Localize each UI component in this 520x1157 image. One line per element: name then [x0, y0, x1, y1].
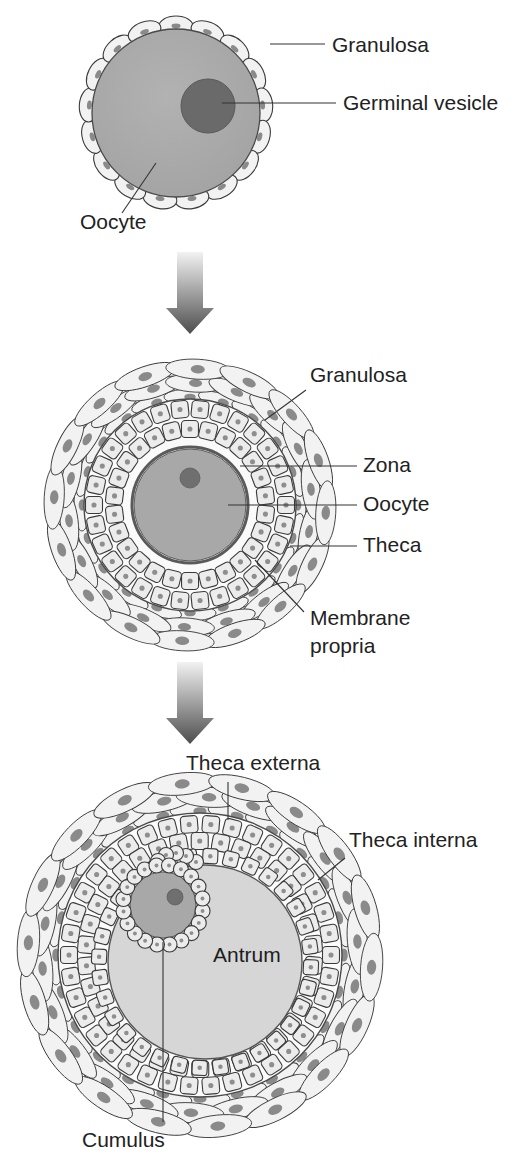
follicle-development-figure: Granulosa Germinal vesicle Oocyte Granul…: [0, 0, 520, 1157]
stage-antral-follicle: Theca externa Theca interna Antrum Cumul…: [15, 751, 478, 1151]
stage-preantral-follicle: Granulosa Zona Oocyte Theca Membrane pro…: [42, 357, 430, 657]
diagram-canvas: Granulosa Germinal vesicle Oocyte Granul…: [0, 0, 520, 1157]
label-granulosa-s2: Granulosa: [310, 363, 407, 386]
oocyte-body: [92, 29, 260, 197]
label-zona-s2: Zona: [363, 453, 411, 476]
germinal-vesicle-s2: [180, 468, 200, 488]
label-oocyte-s2: Oocyte: [363, 492, 430, 515]
label-theca-externa-s3: Theca externa: [186, 751, 321, 774]
germinal-vesicle-s3: [167, 889, 183, 905]
label-granulosa-s1: Granulosa: [332, 33, 429, 56]
arrow-stage1-to-stage2: [166, 252, 214, 334]
arrow-stage2-to-stage3: [166, 662, 214, 744]
label-theca-s2: Theca: [363, 533, 422, 556]
label-membrane-propria-line2: propria: [310, 634, 376, 657]
label-cumulus-s3: Cumulus: [82, 1128, 165, 1151]
label-oocyte-s1: Oocyte: [80, 210, 147, 233]
label-germinal-vesicle-s1: Germinal vesicle: [343, 91, 498, 114]
germinal-vesicle: [181, 79, 235, 133]
label-membrane-propria-line1: Membrane: [310, 606, 410, 629]
stage-primordial-follicle: Granulosa Germinal vesicle Oocyte: [78, 16, 498, 233]
label-theca-interna-s3: Theca interna: [349, 828, 478, 851]
down-arrow-icon: [166, 662, 214, 744]
down-arrow-icon: [166, 252, 214, 334]
label-antrum-s3: Antrum: [213, 943, 281, 966]
